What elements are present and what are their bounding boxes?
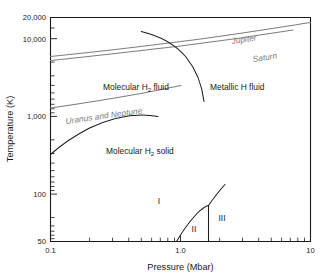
x-tick-label-1-0: 1.0 [175, 246, 186, 255]
phase-region-i-label: I [158, 196, 160, 206]
molecular-h2-fluid-label: Molecular H2 fluid [103, 82, 169, 93]
hydrogen-phase-diagram-figure: 20,000 10,000 1,000 100 50 0.1 1.0 10 Pr… [0, 0, 325, 277]
phase-region-ii-label: II [192, 224, 197, 234]
molecular-h2-solid-label: Molecular H2 solid [106, 146, 174, 157]
metallic-h-fluid-label: Metallic H fluid [210, 82, 265, 92]
chart-svg: 20,000 10,000 1,000 100 50 0.1 1.0 10 Pr… [0, 0, 325, 277]
x-tick-label-10: 10 [306, 246, 314, 255]
figure-background [0, 0, 325, 277]
x-tick-label-0-1: 0.1 [45, 246, 56, 255]
y-tick-label-1000: 1,000 [27, 112, 46, 121]
x-axis-title: Pressure (Mbar) [147, 262, 213, 272]
y-tick-label-100: 100 [33, 190, 46, 199]
molecular-h2-solid-label-text: Molecular H [106, 146, 151, 156]
phase-region-iii-label: III [218, 213, 225, 223]
molecular-h2-fluid-label-suffix: fluid [151, 82, 169, 92]
y-tick-label-10000: 10,000 [23, 35, 46, 44]
y-tick-label-20000: 20,000 [23, 13, 46, 22]
molecular-h2-fluid-label-text: Molecular H [103, 82, 148, 92]
molecular-h2-solid-label-suffix: solid [154, 146, 174, 156]
y-axis-title: Temperature (K) [5, 96, 15, 162]
